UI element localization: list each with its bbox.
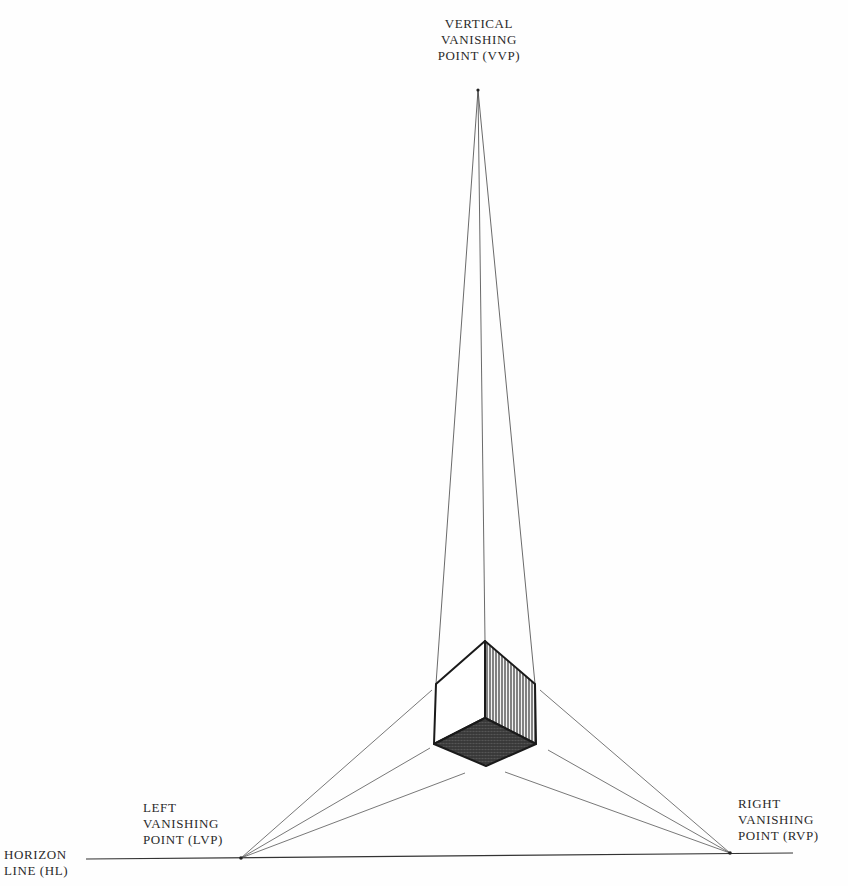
lvp-label-line-3: POINT (LVP) <box>143 832 223 848</box>
vvp-label-line-2: VANISHING <box>414 32 544 48</box>
cube <box>434 641 536 766</box>
vvp-label-line-3: POINT (VVP) <box>414 48 544 64</box>
horizon-label: HORIZON LINE (HL) <box>4 847 68 879</box>
vvp-construction-lines <box>436 90 535 684</box>
lvp-label: LEFT VANISHING POINT (LVP) <box>143 800 223 848</box>
vvp-label-line-1: VERTICAL <box>414 16 544 32</box>
horizon-line <box>86 853 793 859</box>
rvp-dot <box>728 851 732 855</box>
vvp-dot <box>476 88 479 91</box>
rvp-label-line-3: POINT (RVP) <box>738 828 819 844</box>
rvp-construction-lines <box>505 690 730 853</box>
perspective-diagram <box>0 0 848 886</box>
lvp-label-line-2: VANISHING <box>143 816 223 832</box>
lvp-dot <box>239 856 243 860</box>
lvp-label-line-1: LEFT <box>143 800 223 816</box>
vvp-label: VERTICAL VANISHING POINT (VVP) <box>414 16 544 64</box>
lvp-construction-lines <box>241 690 465 858</box>
rvp-label: RIGHT VANISHING POINT (RVP) <box>738 796 819 844</box>
rvp-label-line-1: RIGHT <box>738 796 819 812</box>
horizon-label-line-1: HORIZON <box>4 847 68 863</box>
rvp-label-line-2: VANISHING <box>738 812 819 828</box>
horizon-label-line-2: LINE (HL) <box>4 863 68 879</box>
